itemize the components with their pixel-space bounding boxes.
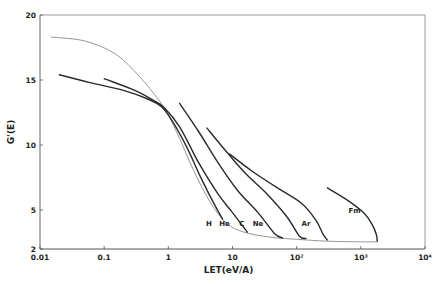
- series-label-ar: Ar: [302, 220, 311, 228]
- x-tick-label: 1: [166, 253, 171, 262]
- y-tick-label: 20: [26, 11, 36, 20]
- series-label-c: C: [239, 220, 244, 228]
- y-axis-title: G'(E): [6, 120, 16, 145]
- series-line-c: [180, 103, 283, 238]
- series-label-h: H: [206, 220, 212, 228]
- plot-frame: [40, 15, 425, 249]
- x-tick-label: 10: [227, 253, 237, 262]
- series-label-ne: Ne: [253, 220, 264, 228]
- y-tick-label: 5: [31, 206, 36, 215]
- x-tick-label: 10²: [290, 253, 304, 262]
- series-line-h: [59, 75, 222, 219]
- x-tick-label: 0.01: [31, 253, 50, 262]
- y-tick-label: 2: [31, 245, 36, 254]
- series-labels: HHeCNeArFm: [206, 207, 361, 228]
- x-tick-label: 10⁴: [418, 253, 432, 262]
- x-tick-label: 10³: [354, 253, 368, 262]
- chart: 0.010.111010²10³10⁴ 25101520 HHeCNeArFm …: [0, 0, 441, 284]
- series-label-he: He: [219, 220, 230, 228]
- series-label-fm: Fm: [349, 207, 361, 215]
- series-group: [51, 37, 377, 242]
- series-line-reference: [51, 37, 377, 242]
- y-tick-label: 10: [26, 141, 36, 150]
- x-axis-ticks: 0.010.111010²10³10⁴: [31, 246, 432, 262]
- y-tick-label: 15: [26, 76, 36, 85]
- series-line-he: [104, 79, 247, 232]
- x-tick-label: 0.1: [98, 253, 111, 262]
- x-axis-title: LET(eV/A): [204, 265, 254, 275]
